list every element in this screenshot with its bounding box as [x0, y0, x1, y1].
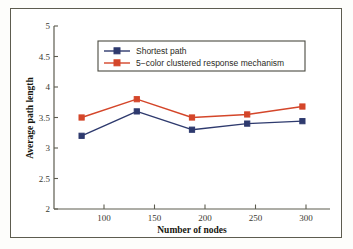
data-point-s0-1 — [134, 109, 139, 114]
legend-label-0: Shortest path — [136, 46, 187, 56]
y-axis-title: Average path length — [25, 76, 35, 158]
legend-marker-0 — [114, 48, 120, 54]
plot-area: 2 2.5 3 3.5 4 4.5 5 100 150 200 250 300 … — [0, 0, 353, 249]
data-point-s0-3 — [245, 121, 250, 126]
data-series-group — [79, 97, 305, 139]
data-point-s0-0 — [79, 133, 84, 138]
data-point-s1-0 — [79, 115, 84, 120]
y-tick-label-6: 5 — [46, 21, 51, 31]
x-tick-label-0: 100 — [97, 213, 111, 223]
x-tick-label-2: 200 — [198, 213, 212, 223]
data-point-s0-4 — [300, 119, 305, 124]
data-point-s0-2 — [189, 127, 194, 132]
legend-label-1: 5−color clustered response mechanism — [136, 58, 284, 68]
y-tick-label-1: 2.5 — [39, 174, 51, 184]
data-point-s1-2 — [189, 115, 194, 120]
x-axis-ticks — [104, 205, 306, 210]
y-tick-label-4: 4 — [46, 82, 51, 92]
x-tick-label-4: 300 — [299, 213, 313, 223]
data-point-s1-4 — [300, 104, 305, 109]
y-tick-label-0: 2 — [46, 204, 51, 214]
figure-container: 2 2.5 3 3.5 4 4.5 5 100 150 200 250 300 … — [0, 0, 353, 249]
y-tick-label-2: 3 — [46, 143, 51, 153]
legend-marker-1 — [114, 60, 120, 66]
legend: Shortest path 5−color clustered response… — [98, 41, 305, 71]
y-tick-label-3: 3.5 — [39, 113, 51, 123]
x-tick-label-1: 150 — [148, 213, 162, 223]
x-tick-label-3: 250 — [249, 213, 263, 223]
data-point-s1-1 — [134, 97, 139, 102]
chart-svg: 2 2.5 3 3.5 4 4.5 5 100 150 200 250 300 … — [0, 0, 353, 249]
data-point-s1-3 — [245, 112, 250, 117]
y-tick-label-5: 4.5 — [39, 52, 51, 62]
x-axis-title: Number of nodes — [157, 225, 227, 235]
